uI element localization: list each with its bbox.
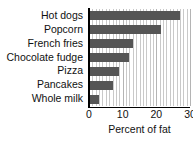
x-tick-label: 20 — [150, 108, 162, 120]
x-tick-label: 30 — [184, 108, 193, 120]
category-label: Whole milk — [0, 92, 86, 106]
category-axis-labels: Hot dogs Popcorn French fries Chocolate … — [0, 9, 86, 106]
bar — [89, 81, 113, 90]
bar-row — [89, 37, 190, 51]
category-label: Pizza — [0, 64, 86, 78]
x-axis-ticks: 0102030 — [89, 108, 190, 122]
x-tick-label: 10 — [117, 108, 129, 120]
bar — [89, 25, 161, 34]
plot-area — [89, 9, 190, 106]
bar-row — [89, 92, 190, 106]
bar-row — [89, 78, 190, 92]
bar — [89, 95, 99, 104]
bar-series — [89, 9, 190, 106]
y-axis-line — [88, 8, 90, 107]
bar-chart: Hot dogs Popcorn French fries Chocolate … — [0, 0, 193, 142]
bar — [89, 11, 180, 20]
x-tick-label: 0 — [86, 108, 92, 120]
category-label: French fries — [0, 37, 86, 51]
bar-row — [89, 51, 190, 65]
bar-row — [89, 64, 190, 78]
bar-row — [89, 23, 190, 37]
category-label: Pancakes — [0, 78, 86, 92]
bar — [89, 39, 133, 48]
category-label: Hot dogs — [0, 9, 86, 23]
category-label: Popcorn — [0, 23, 86, 37]
bar-row — [89, 9, 190, 23]
category-label: Chocolate fudge — [0, 51, 86, 65]
bar — [89, 53, 129, 62]
bar — [89, 67, 119, 76]
x-axis-title: Percent of fat — [89, 123, 190, 136]
gridline — [190, 9, 191, 106]
